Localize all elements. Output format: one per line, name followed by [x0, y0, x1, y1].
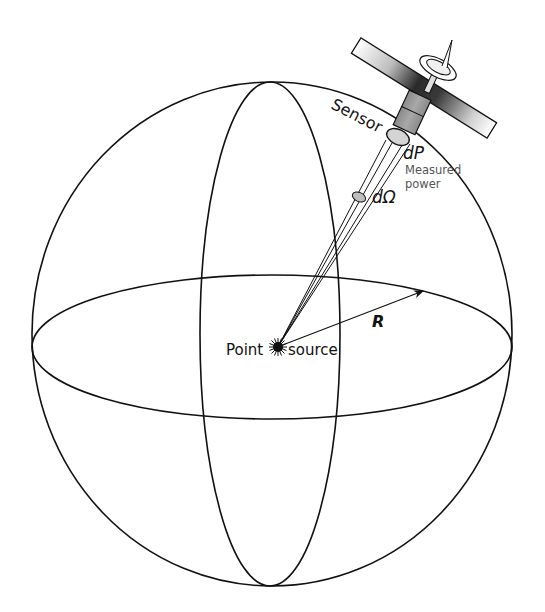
point-source-icon: [269, 338, 287, 356]
point-label: Point: [226, 341, 263, 359]
radius-arrow: [280, 291, 423, 346]
source-label: source: [288, 341, 338, 359]
antenna-spike-icon: [442, 40, 452, 68]
solid-angle-label: dΩ: [372, 187, 396, 207]
sphere-outline: [32, 82, 512, 586]
solid-angle-cone: [279, 140, 410, 345]
meridian-ellipse: [200, 82, 340, 586]
measured-power-label-line1: Measured: [405, 163, 461, 177]
dp-label: dP: [403, 143, 425, 163]
sphere-point-source-diagram: Sensor dP Measured power dΩ R Point sour…: [0, 0, 545, 612]
sensor-label: Sensor: [328, 95, 386, 137]
radius-label: R: [372, 312, 384, 331]
measured-power-label-line2: power: [405, 177, 441, 191]
